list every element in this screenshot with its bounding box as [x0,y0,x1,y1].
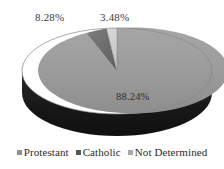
data-label-not-determined: 3.48% [100,11,129,23]
legend-label-catholic: Catholic [83,146,121,158]
chart-legend: Protestant Catholic Not Determined [0,146,224,158]
data-label-catholic: 8.28% [35,11,64,23]
legend-item-protestant[interactable]: Protestant [17,146,69,158]
legend-item-not-determined[interactable]: Not Determined [128,146,208,158]
legend-item-catholic[interactable]: Catholic [76,146,121,158]
legend-label-protestant: Protestant [24,146,69,158]
legend-label-not-determined: Not Determined [135,146,208,158]
legend-swatch-icon-catholic [76,150,81,155]
data-label-protestant: 88.24% [116,91,150,102]
legend-swatch-icon-not-determined [128,150,133,155]
legend-swatch-icon-protestant [17,150,22,155]
pie-chart-figure: 8.28% 3.48% 88.24% Protestant Catholic N… [0,0,224,169]
